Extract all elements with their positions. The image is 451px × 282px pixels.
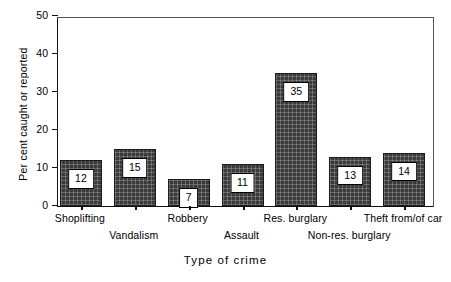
x-axis-tick [243, 206, 245, 210]
x-axis-tick-label: Theft from/of car [364, 212, 443, 224]
bar-chart-figure: Per cent caught or reported 01020304050 … [0, 0, 451, 282]
y-axis-tick: 10 [52, 167, 58, 168]
bar: 12 [60, 160, 102, 206]
y-axis-tick-label: 40 [36, 47, 48, 59]
x-axis-tick [404, 206, 406, 210]
x-axis-tick [81, 206, 83, 210]
bar-value-label: 11 [230, 173, 255, 193]
y-axis-tick: 0 [52, 205, 58, 206]
y-axis-tick: 40 [52, 53, 58, 54]
bar-value-label: 35 [284, 82, 310, 102]
plot-area: 01020304050 1215711351314 [57, 17, 434, 207]
y-axis-title: Per cent caught or reported [17, 14, 29, 214]
x-axis-tick-label: Shoplifting [55, 212, 105, 224]
x-axis-tick-label: Assault [224, 229, 259, 241]
x-axis-tick [189, 206, 191, 210]
y-axis-tick-label: 10 [36, 161, 48, 173]
y-axis-tick-label: 50 [36, 9, 48, 21]
y-axis-tick: 50 [52, 15, 58, 16]
x-axis-tick-label: Non-res. burglary [308, 229, 391, 241]
x-axis-tick [135, 206, 137, 210]
y-axis-tick-label: 0 [42, 199, 48, 211]
bar: 11 [222, 164, 264, 206]
bar-value-label: 15 [122, 158, 148, 178]
bar-value-label: 12 [68, 169, 94, 189]
y-axis-tick: 20 [52, 129, 58, 130]
bar-value-label: 13 [337, 166, 363, 186]
bar: 15 [114, 149, 156, 206]
x-axis-tick [296, 206, 298, 210]
bar-value-label: 14 [391, 162, 417, 182]
y-axis-tick-label: 20 [36, 123, 48, 135]
bar: 7 [168, 179, 210, 206]
x-axis-tick-label: Robbery [167, 212, 207, 224]
bar: 13 [329, 157, 371, 206]
y-axis-tick-label: 30 [36, 85, 48, 97]
x-axis-tick-label: Vandalism [109, 229, 158, 241]
bar: 14 [383, 153, 425, 206]
bar-value-label: 7 [179, 188, 199, 208]
x-axis-tick [350, 206, 352, 210]
x-axis-title: Type of crime [0, 254, 451, 266]
x-axis-tick-label: Res. burglary [263, 212, 327, 224]
bar: 35 [275, 73, 317, 206]
y-axis-tick: 30 [52, 91, 58, 92]
